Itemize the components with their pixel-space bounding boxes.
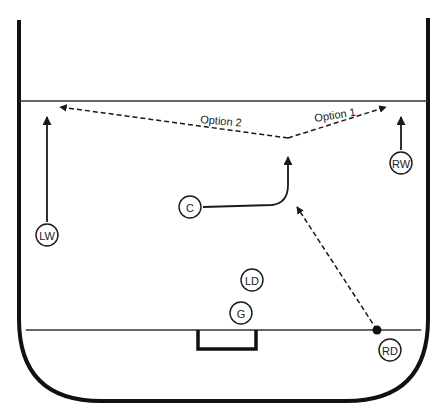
- player-ld: LD: [241, 269, 263, 291]
- skating-paths: [47, 117, 401, 222]
- svg-text:G: G: [237, 308, 246, 320]
- player-c: C: [179, 196, 201, 218]
- svg-text:LW: LW: [39, 230, 55, 242]
- player-rd: RD: [379, 339, 401, 361]
- svg-text:C: C: [186, 202, 194, 214]
- goal-net: [198, 330, 256, 349]
- skate-path-c: [203, 157, 288, 207]
- option-labels: Option 2Option 1: [200, 106, 357, 129]
- puck: [373, 326, 382, 335]
- player-lw: LW: [36, 224, 58, 246]
- rink-boards: [19, 18, 428, 401]
- player-rw: RW: [390, 152, 412, 174]
- svg-text:RW: RW: [392, 158, 411, 170]
- passing-lanes: [60, 107, 386, 330]
- pass-arrow-option-2: [60, 107, 288, 138]
- option-label: Option 1: [313, 106, 356, 124]
- pass-arrow-0: [297, 207, 377, 330]
- hockey-rink-diagram: LWRWCLDGRD Option 2Option 1: [0, 0, 446, 412]
- svg-text:LD: LD: [245, 275, 259, 287]
- player-g: G: [230, 302, 252, 324]
- svg-text:RD: RD: [382, 345, 398, 357]
